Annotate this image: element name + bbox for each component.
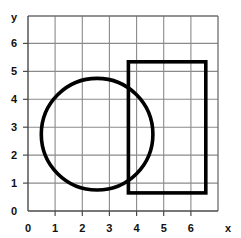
y-tick-label-6: 6 xyxy=(11,37,17,49)
y-tick-label-2: 2 xyxy=(11,149,17,161)
y-tick-label-1: 1 xyxy=(11,177,17,189)
x-tick-label-2: 2 xyxy=(79,222,85,234)
y-tick-label-3: 3 xyxy=(11,121,17,133)
x-axis-label: x xyxy=(225,222,232,234)
x-tick-label-0: 0 xyxy=(25,222,31,234)
x-tick-label-5: 5 xyxy=(161,222,167,234)
x-tick-label-1: 1 xyxy=(52,222,58,234)
y-tick-label-5: 5 xyxy=(11,65,17,77)
y-tick-label-4: 4 xyxy=(11,93,18,105)
x-tick-label-4: 4 xyxy=(134,222,141,234)
y-axis-label: y xyxy=(11,11,18,23)
x-tick-label-6: 6 xyxy=(188,222,194,234)
y-tick-label-0: 0 xyxy=(11,205,17,217)
coordinate-grid-figure: 0 1 2 3 4 5 6 0 1 2 3 4 5 6 y x xyxy=(0,0,241,238)
x-tick-label-3: 3 xyxy=(106,222,112,234)
